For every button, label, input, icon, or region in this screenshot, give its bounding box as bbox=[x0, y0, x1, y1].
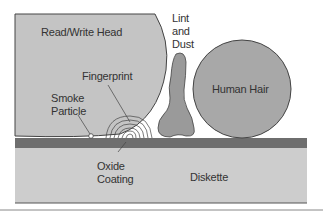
smoke-particle-shape bbox=[89, 134, 94, 139]
oxide-coating-shape bbox=[15, 138, 307, 148]
oxide-label-line2: Coating bbox=[97, 173, 134, 186]
hair-label: Human Hair bbox=[212, 83, 269, 96]
lint-label-line2: and bbox=[172, 25, 190, 38]
diskette-shape bbox=[15, 147, 307, 203]
smoke-label-line1: Smoke bbox=[51, 92, 84, 105]
diskette-label: Diskette bbox=[190, 171, 228, 184]
lint-label-line1: Lint bbox=[172, 12, 189, 25]
oxide-label-line1: Oxide bbox=[97, 160, 125, 173]
smoke-label-line2: Particle bbox=[51, 105, 86, 118]
lint-label-line3: Dust bbox=[172, 38, 194, 51]
fingerprint-label: Fingerprint bbox=[82, 70, 132, 83]
head-label: Read/Write Head bbox=[41, 26, 122, 39]
